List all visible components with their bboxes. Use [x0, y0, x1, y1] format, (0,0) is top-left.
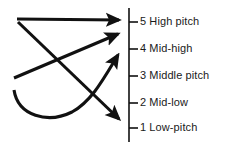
dipping-rising-contour: [14, 55, 118, 117]
pitch-level-label-5: 5 High pitch: [140, 16, 199, 27]
pitch-level-label-1: 1 Low-pitch: [140, 122, 197, 133]
level-high-contour: [17, 19, 119, 20]
pitch-contour-arrows: [14, 19, 119, 119]
pitch-level-label-3: 3 Middle pitch: [140, 70, 209, 81]
pitch-level-label-4: 4 Mid-high: [140, 43, 192, 54]
rising-to-mid-high-contour: [14, 34, 118, 78]
pitch-level-label-2: 2 Mid-low: [140, 97, 188, 108]
pitch-contour-diagram: 5 High pitch4 Mid-high3 Middle pitch2 Mi…: [0, 0, 230, 147]
pitch-scale-ticks: [129, 22, 138, 128]
